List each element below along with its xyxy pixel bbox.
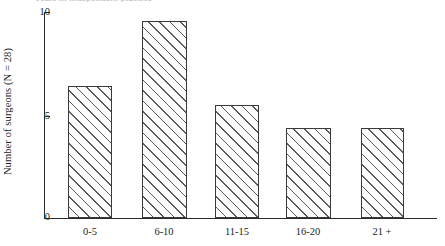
y-tick-label-10-wrap: 10 (20, 7, 50, 17)
bar-16-20 (286, 128, 331, 218)
y-tick-label-5: 5 (32, 111, 50, 121)
y-tick-label-0-wrap: 0 (20, 212, 50, 222)
bar-21-plus (361, 128, 404, 218)
x-tick-label-16-20: 16-20 (278, 226, 338, 237)
y-tick-label-0: 0 (32, 212, 50, 222)
y-tick-label-5-wrap: 5 (20, 111, 50, 121)
x-tick-label-0-5: 0-5 (60, 226, 120, 237)
x-tick-label-6-10: 6-10 (134, 226, 194, 237)
bar-0-5 (68, 86, 112, 218)
plot-area: 10 5 0 0-5 6-10 11-15 16-20 21 + (0, 0, 445, 246)
bar-11-15 (215, 105, 259, 218)
bar-6-10 (142, 21, 187, 218)
y-tick-label-10: 10 (32, 7, 50, 17)
bar-chart-figure: Years in independent practice Number of … (0, 0, 445, 246)
x-tick-label-21-plus: 21 + (352, 226, 412, 237)
x-tick-label-11-15: 11-15 (207, 226, 267, 237)
